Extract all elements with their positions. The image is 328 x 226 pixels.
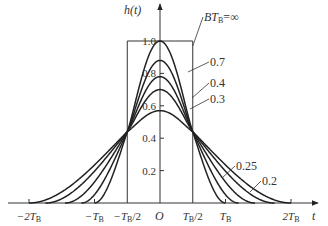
x-axis-label: t [312, 209, 316, 223]
y-tick-label: 0.4 [142, 132, 156, 144]
y-tick-label: 0.6 [142, 100, 156, 112]
series-label: 0.3 [210, 92, 225, 106]
gaussian-filter-impulse-response-chart: 0.20.40.60.81.0−2TB−TB−TB/2TB/2TB2TB BTB… [0, 0, 328, 226]
origin-label: O [155, 209, 164, 223]
x-tick-label: TB/2 [183, 210, 203, 224]
x-tick-label: −2TB [17, 210, 41, 224]
series-label: 0.25 [236, 159, 257, 173]
ticks-group: 0.20.40.60.81.0−2TB−TB−TB/2TB/2TB2TB [17, 35, 300, 224]
series-label: BTB=∞ [204, 10, 239, 25]
y-tick-label: 1.0 [142, 35, 156, 47]
y-axis-label: h(t) [124, 3, 141, 17]
series-label: 0.7 [210, 55, 225, 69]
x-tick-label: −TB/2 [114, 210, 141, 224]
y-tick-label: 0.2 [142, 165, 156, 177]
y-tick-label: 0.8 [142, 67, 156, 79]
x-tick-label: −TB [85, 210, 104, 224]
x-tick-label: TB [220, 210, 231, 224]
series-labels-group: BTB=∞0.70.40.30.250.2 [188, 10, 277, 192]
series-label: 0.2 [262, 174, 277, 188]
series-label: 0.4 [210, 76, 225, 90]
x-tick-label: 2TB [283, 210, 300, 224]
